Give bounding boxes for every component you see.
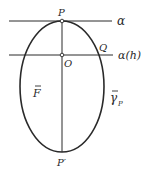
label-o: O [64, 58, 72, 69]
label-alpha-h: α(h) [118, 49, 141, 62]
label-alpha: α [117, 14, 125, 28]
label-f: F [32, 87, 41, 100]
label-gamma-subscript: P [117, 100, 123, 108]
point-p-marker [60, 19, 64, 23]
label-q: Q [99, 42, 107, 53]
label-p-prime: P′ [56, 157, 67, 168]
label-gamma: γ [110, 91, 118, 105]
point-o-marker [60, 53, 64, 57]
ellipse-section-diagram: P α Q α(h) O F γ P P′ [0, 0, 156, 176]
label-p: P [57, 7, 65, 18]
